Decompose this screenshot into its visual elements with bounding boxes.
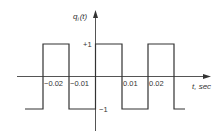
y-axis-arrow-icon [93, 10, 98, 18]
x-tick-neg-0-02: −0.02 [44, 79, 63, 88]
square-wave-chart: qi(t) t, sec +1 −1 −0.02 −0.01 0.01 0.02 [0, 0, 222, 136]
y-tick-plus-one: +1 [83, 40, 92, 49]
x-axis-arrow-icon [203, 74, 211, 79]
y-tick-minus-one: −1 [99, 105, 108, 114]
x-tick-pos-0-01: 0.01 [123, 79, 138, 88]
y-axis-label: qi(t) [73, 12, 88, 22]
x-tick-pos-0-02: 0.02 [149, 79, 164, 88]
x-axis-label: t, sec [192, 82, 211, 91]
x-tick-neg-0-01: −0.01 [70, 79, 89, 88]
